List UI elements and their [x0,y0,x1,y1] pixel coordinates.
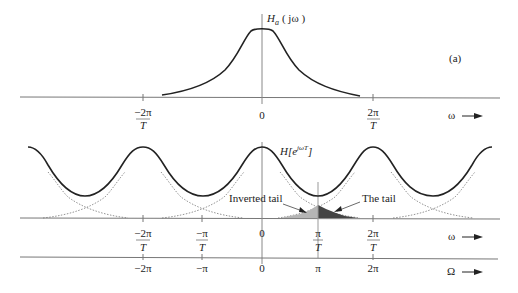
svg-text:−2π: −2π [134,106,152,118]
svg-text:0: 0 [259,227,265,239]
panel-a-tick-label: 2π T [367,106,380,131]
svg-text:T: T [199,241,206,253]
panel-a-omega-axis-label: ω [448,109,483,121]
panel-a-tick-label: −2π T [134,106,152,131]
omega-tick-label: 2π T [367,227,380,253]
digital-spectrum-label: H[ejωT] [279,144,312,157]
arrow-head-icon [299,207,307,213]
panel-a: Ha( jω ) (a) −2π T 0 2π T ω [20,12,500,131]
Omega-tick-label: 2π [367,262,379,274]
omega-tick-label: −2π T [134,227,152,253]
svg-text:T: T [370,241,377,253]
svg-text:T: T [140,241,147,253]
arrow-head-icon [474,113,483,119]
svg-text:π: π [315,227,321,239]
arrow-head-icon [334,206,342,212]
aliasing-diagram: Ha( jω ) (a) −2π T 0 2π T ω [0,0,518,293]
svg-text:T: T [315,241,322,253]
omega-tick-label: π T [313,227,323,253]
svg-text:ω: ω [448,109,455,121]
panel-b-omega-axis [20,218,500,219]
analog-spectrum-curve [162,29,360,96]
svg-text:T: T [140,119,147,131]
panel-a-omega-axis [20,97,500,98]
omega-tick-label: 0 [259,227,265,239]
omega-tick-label: −π T [196,227,208,253]
svg-text:2π: 2π [367,227,379,239]
svg-text:−2π: −2π [134,227,152,239]
inverted-tail-region [280,205,318,218]
panel-b-Omega-axis-label: Ω [447,265,483,277]
inverted-tail-annotation: Inverted tail [229,192,282,204]
arrow-head-icon [474,269,483,275]
svg-text:T: T [370,119,377,131]
svg-text:Ω: Ω [447,265,455,277]
panel-b-omega-axis-label: ω [448,230,483,242]
analog-spectrum-label: Ha( jω ) [266,12,305,27]
svg-text:ω: ω [448,230,455,242]
panel-b-Omega-axis [20,257,498,259]
Omega-tick-label: π [315,262,321,274]
panel-b: H[ejωT] Inverted tail The tail −2π T −π … [20,142,500,277]
tail-annotation: The tail [362,192,396,204]
digital-spectrum-curve [28,147,492,196]
Omega-tick-label: −2π [134,262,152,274]
arrow-head-icon [474,234,483,240]
Omega-tick-label: −π [196,262,208,274]
panel-a-tick-label: 0 [259,109,265,121]
svg-text:0: 0 [259,109,265,121]
panel-a-label: (a) [449,52,462,65]
Omega-tick-label: 0 [259,262,265,274]
svg-text:2π: 2π [367,106,379,118]
svg-text:−π: −π [196,227,208,239]
